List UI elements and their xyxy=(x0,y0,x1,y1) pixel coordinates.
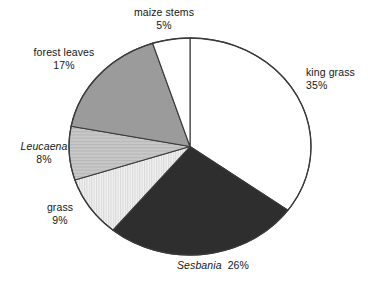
slice-label-maize-stems-value: 5% xyxy=(116,19,212,32)
slice-label-leucaena: Leucaena 8% xyxy=(6,140,82,165)
slice-label-maize-stems: maize stems 5% xyxy=(116,6,212,31)
slice-label-king-grass-value: 35% xyxy=(306,79,366,92)
slice-label-forest-leaves: forest leaves 17% xyxy=(14,46,114,71)
slice-label-king-grass: king grass 35% xyxy=(306,66,366,91)
slice-label-maize-stems-name: maize stems xyxy=(116,6,212,19)
pie-chart-figure: maize stems 5% forest leaves 17% Leucaen… xyxy=(0,0,368,285)
slice-label-leucaena-value: 8% xyxy=(6,153,82,166)
slice-label-grass: grass 9% xyxy=(24,201,96,226)
slice-label-grass-name: grass xyxy=(24,201,96,214)
slice-label-sesbania: Sesbania 26% xyxy=(158,259,268,272)
slice-label-sesbania-value: 26% xyxy=(228,259,249,271)
slice-label-leucaena-name: Leucaena xyxy=(6,140,82,153)
slice-label-king-grass-name: king grass xyxy=(306,66,366,79)
slice-label-sesbania-name: Sesbania xyxy=(177,259,222,271)
slice-label-forest-leaves-value: 17% xyxy=(14,59,114,72)
slice-label-forest-leaves-name: forest leaves xyxy=(14,46,114,59)
slice-label-grass-value: 9% xyxy=(24,214,96,227)
